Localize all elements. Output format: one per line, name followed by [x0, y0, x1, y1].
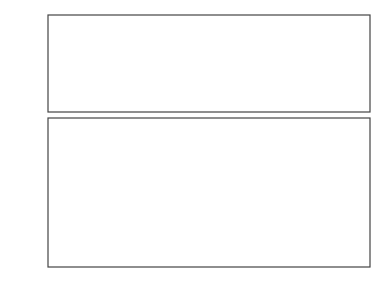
- chart-canvas: [0, 0, 380, 298]
- bottom-panel-frame: [48, 118, 370, 267]
- top-panel-frame: [48, 15, 370, 112]
